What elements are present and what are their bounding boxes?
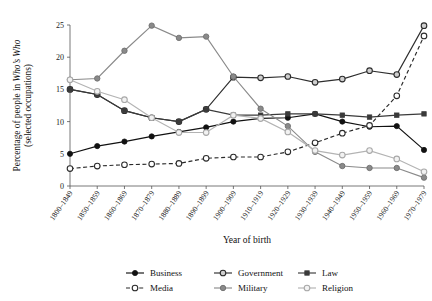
data-point <box>258 116 264 122</box>
legend-item-military[interactable]: Military <box>214 283 268 293</box>
data-point <box>67 77 73 83</box>
series-military <box>67 23 426 180</box>
data-point <box>367 115 371 119</box>
data-point <box>94 163 100 169</box>
data-point <box>394 72 400 78</box>
data-point <box>94 89 100 95</box>
x-tick-label: 1940–1949 <box>320 189 347 222</box>
legend-label: Media <box>150 283 173 293</box>
data-point <box>149 23 154 28</box>
data-point <box>149 134 154 139</box>
data-point <box>67 166 73 172</box>
x-tick-label: 1870–1879 <box>129 189 156 222</box>
legend-label: Religion <box>322 283 353 293</box>
data-point <box>421 23 427 29</box>
x-tick-label: 1920–1929 <box>266 189 293 222</box>
y-tick-label: 20 <box>56 53 64 62</box>
data-point <box>421 175 426 180</box>
data-point <box>367 165 372 170</box>
legend-item-business[interactable]: Business <box>126 268 183 278</box>
data-point <box>149 115 155 121</box>
x-tick-label: 1860–1869 <box>102 189 129 222</box>
data-point <box>367 123 373 129</box>
data-point <box>203 34 208 39</box>
x-axis-title: Year of birth <box>223 235 271 245</box>
data-point <box>285 74 291 80</box>
data-point <box>122 48 127 53</box>
data-point <box>177 119 181 123</box>
data-point <box>286 112 290 116</box>
legend-item-religion[interactable]: Religion <box>298 283 353 293</box>
x-tick-label: 1900–1909 <box>211 189 238 222</box>
y-axis-title-text: Percentage of people in <box>12 82 22 172</box>
data-point <box>312 148 318 154</box>
data-point <box>312 80 318 86</box>
data-point <box>312 140 318 146</box>
data-point <box>258 154 264 160</box>
data-point <box>231 112 237 118</box>
legend-item-law[interactable]: Law <box>298 268 338 278</box>
data-point <box>176 161 182 167</box>
y-axis-title: Percentage of people in Who’s Who(select… <box>12 39 34 171</box>
data-point <box>122 139 127 144</box>
y-tick-label: 5 <box>60 150 64 159</box>
data-point <box>95 143 100 148</box>
data-point <box>176 35 181 40</box>
legend-label: Military <box>238 283 268 293</box>
data-point <box>258 75 264 81</box>
y-tick-label: 10 <box>56 118 64 127</box>
legend-label: Law <box>322 268 338 278</box>
data-point <box>421 169 427 175</box>
chart-figure: 05101520251800–18491850–18591860–1869187… <box>0 0 432 301</box>
legend-item-media[interactable]: Media <box>126 283 173 293</box>
x-tick-label: 1910–1919 <box>238 189 265 222</box>
data-point <box>305 271 309 275</box>
data-point <box>421 33 427 39</box>
data-point <box>394 93 400 99</box>
data-point <box>313 112 317 116</box>
data-point <box>231 154 237 160</box>
data-point <box>220 270 226 276</box>
data-point <box>203 130 209 136</box>
data-point <box>122 108 126 112</box>
data-point <box>340 130 346 136</box>
data-point <box>340 76 346 82</box>
data-point <box>122 97 128 103</box>
data-point <box>67 151 72 156</box>
data-point <box>394 124 399 129</box>
data-point <box>231 119 236 124</box>
line-chart: 05101520251800–18491850–18591860–1869187… <box>0 0 432 301</box>
x-tick-label: 1930–1939 <box>293 189 320 222</box>
data-point <box>285 129 291 135</box>
data-point <box>204 107 208 111</box>
data-point <box>176 130 182 136</box>
y-axis-title-line1: Percentage of people in Who’s Who <box>12 39 22 171</box>
x-tick-label: 1800–1849 <box>48 189 75 222</box>
data-point <box>231 74 236 79</box>
data-point <box>203 156 209 162</box>
data-point <box>394 165 399 170</box>
data-point <box>340 163 345 168</box>
data-point <box>122 162 128 168</box>
data-point <box>340 113 344 117</box>
y-tick-label: 15 <box>56 85 64 94</box>
data-point <box>394 156 400 162</box>
legend-label: Business <box>150 268 183 278</box>
data-point <box>340 152 346 158</box>
data-point <box>68 87 72 91</box>
data-point <box>285 149 291 155</box>
x-tick-label: 1970–1979 <box>402 189 429 222</box>
legend-label: Government <box>238 268 283 278</box>
x-tick-label: 1850–1859 <box>75 189 102 222</box>
data-point <box>95 76 100 81</box>
y-axis-title-line2: (selected occupations) <box>23 64 34 147</box>
x-tick-label: 1960–1969 <box>374 189 401 222</box>
data-point <box>149 161 155 167</box>
y-tick-label: 0 <box>60 182 64 191</box>
data-point <box>258 106 263 111</box>
x-tick-label: 1950–1959 <box>347 189 374 222</box>
data-point <box>422 112 426 116</box>
legend-item-government[interactable]: Government <box>214 268 283 278</box>
y-axis-title-italic: Who’s Who <box>12 39 22 81</box>
x-tick-label: 1890–1899 <box>184 189 211 222</box>
